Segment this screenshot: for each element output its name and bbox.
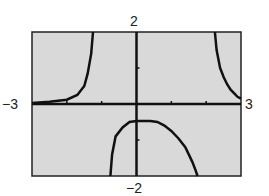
graph-plot <box>0 0 269 196</box>
